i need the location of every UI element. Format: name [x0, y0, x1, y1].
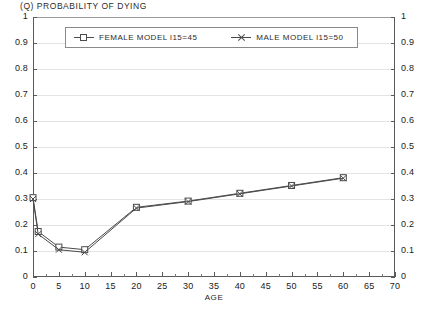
x-axis-label: 35	[200, 281, 228, 291]
y-axis-left-label: 0.5	[0, 141, 28, 151]
plot-area	[33, 17, 395, 277]
series-line-male	[33, 178, 343, 252]
y-axis-right-label: 0.4	[401, 167, 414, 177]
legend-label-male: MALE MODEL l15=50	[256, 33, 343, 42]
y-axis-left-label: 0.8	[0, 63, 28, 73]
y-axis-right-label: 0.9	[401, 37, 414, 47]
y-axis-right-label: 0	[401, 271, 406, 281]
y-axis-left-label: 1	[0, 11, 28, 21]
y-axis-left-label: 0.2	[0, 219, 28, 229]
x-axis-label: 15	[97, 281, 125, 291]
x-axis-label: 20	[122, 281, 150, 291]
y-axis-left-label: 0.9	[0, 37, 28, 47]
legend-label-female: FEMALE MODEL l15=45	[99, 33, 197, 42]
square-marker-icon	[74, 32, 94, 44]
y-axis-left-label: 0.7	[0, 89, 28, 99]
y-axis-left-label: 0.1	[0, 245, 28, 255]
y-axis-right-label: 1	[401, 11, 406, 21]
x-axis-label: 40	[226, 281, 254, 291]
x-axis-label: 5	[45, 281, 73, 291]
data-series-layer	[33, 17, 395, 277]
x-axis-label: 25	[148, 281, 176, 291]
x-axis-label: 45	[252, 281, 280, 291]
y-axis-left-label: 0	[0, 271, 28, 281]
x-axis-label: 55	[303, 281, 331, 291]
x-axis-label: 65	[355, 281, 383, 291]
y-tick-right	[391, 277, 395, 278]
x-axis-label: 60	[329, 281, 357, 291]
y-axis-left-label: 0.4	[0, 167, 28, 177]
legend-item-male[interactable]: MALE MODEL l15=50	[231, 32, 343, 44]
y-axis-right-label: 0.6	[401, 115, 414, 125]
legend-item-female[interactable]: FEMALE MODEL l15=45	[74, 32, 197, 44]
y-axis-right-label: 0.2	[401, 219, 414, 229]
y-tick-left	[33, 277, 37, 278]
y-axis-right-label: 0.8	[401, 63, 414, 73]
y-axis-left-label: 0.3	[0, 193, 28, 203]
x-axis-label: 70	[381, 281, 409, 291]
y-axis-right-label: 0.5	[401, 141, 414, 151]
y-axis-left-label: 0.6	[0, 115, 28, 125]
chart-title: (Q) PROBABILITY OF DYING	[20, 1, 147, 11]
x-tick	[395, 272, 396, 277]
x-axis-label: 0	[19, 281, 47, 291]
x-axis-label: 30	[174, 281, 202, 291]
chart-container: (Q) PROBABILITY OF DYING 00.10.20.30.40.…	[0, 0, 425, 317]
x-axis-label: 50	[278, 281, 306, 291]
x-marker-icon	[231, 32, 251, 44]
chart-legend: FEMALE MODEL l15=45 MALE MODEL l15=50	[65, 27, 358, 48]
y-axis-right-label: 0.1	[401, 245, 414, 255]
series-line-female	[33, 178, 343, 250]
y-axis-right-label: 0.3	[401, 193, 414, 203]
x-axis-label: 10	[71, 281, 99, 291]
x-axis-title: AGE	[174, 293, 254, 302]
y-axis-right-label: 0.7	[401, 89, 414, 99]
